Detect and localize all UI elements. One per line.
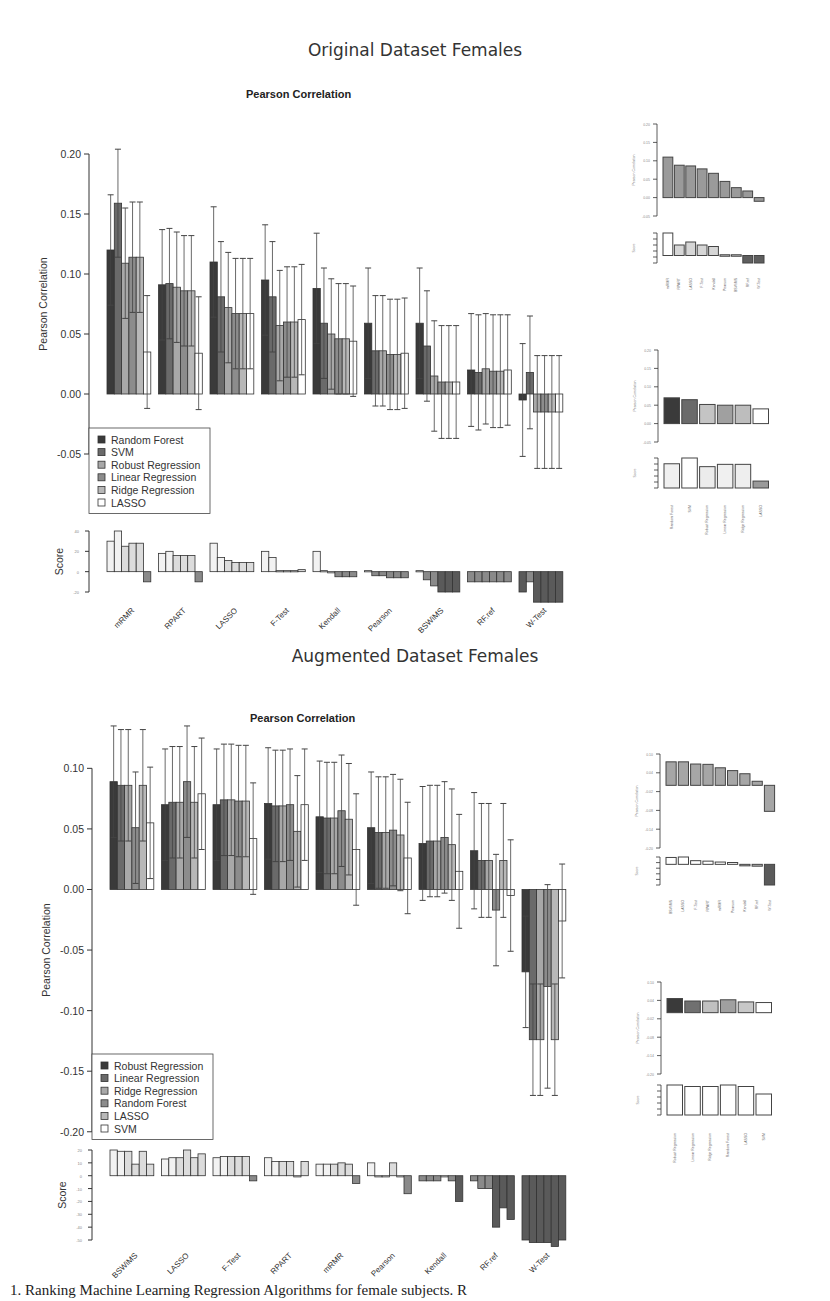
inset-x-label: Pearson <box>723 278 727 291</box>
inset-bar <box>685 1001 701 1013</box>
inset-x-label: Linear Regression <box>723 505 727 533</box>
y-tick-label: 0.00 <box>61 388 82 400</box>
score-bar <box>504 572 511 582</box>
bar-group <box>471 793 515 966</box>
score-bar <box>382 1176 389 1177</box>
inset-score-bar <box>753 481 769 488</box>
score-bar <box>335 572 342 577</box>
inset-score-bar <box>731 255 741 257</box>
score-bar <box>250 1176 257 1181</box>
score-bar <box>269 557 276 571</box>
x-tick-label: mRMR <box>112 606 136 630</box>
bar-group <box>107 149 151 408</box>
score-tick-label: -50 <box>76 1238 83 1243</box>
inset-bar <box>717 405 733 423</box>
inset-bar <box>735 405 751 423</box>
inset-tick-label: 0.10 <box>644 385 651 389</box>
score-bar <box>431 572 438 586</box>
inset-x-label: Kendall <box>712 278 716 290</box>
figure-canvas: 0.200.150.100.050.00-0.05Pearson Correla… <box>0 0 830 1301</box>
inset-tick-label: -0.02 <box>645 790 653 794</box>
inset-x-label: W-Test <box>757 278 761 289</box>
y-tick-label: -0.15 <box>60 1065 84 1077</box>
score-bar <box>117 1151 124 1175</box>
legend-swatch <box>98 474 105 481</box>
inset-tick-label: 0.04 <box>647 999 654 1003</box>
score-bar <box>294 1176 301 1177</box>
legend-label: Robust Regression <box>114 1060 203 1072</box>
legend-swatch <box>101 1062 108 1069</box>
inset-score-bar <box>735 464 751 488</box>
inset-score-bar <box>703 1087 719 1116</box>
inset-x-label: RF.ref <box>746 278 750 287</box>
score-bar <box>353 1176 360 1184</box>
score-tick-label: -40 <box>76 1225 83 1230</box>
main-chart: 0.100.050.00-0.05-0.10-0.15-0.20Pearson … <box>40 726 566 1280</box>
legend-swatch <box>98 486 105 493</box>
x-tick-label: LASSO <box>214 606 239 631</box>
score-bar <box>176 1158 183 1176</box>
inset-x-label: LASSO <box>689 278 693 290</box>
score-bar <box>328 572 335 573</box>
score-bar <box>394 572 401 578</box>
inset-chart: 0.200.150.100.050.00-0.05Pearson Correla… <box>632 123 764 293</box>
bar-group <box>365 268 409 410</box>
inset-x-label: Random Forest <box>726 1133 730 1157</box>
score-bar <box>242 1156 249 1175</box>
inset-x-label: mRMR <box>718 900 722 911</box>
inset-score-bar <box>664 464 680 488</box>
score-bar <box>534 572 541 603</box>
inset-tick-label: 0.20 <box>643 123 650 127</box>
score-bar <box>438 572 445 592</box>
inset-x-label: Robust Regression <box>705 505 709 535</box>
score-bar <box>423 572 430 580</box>
score-bar <box>291 571 298 572</box>
bar-group <box>468 314 512 430</box>
score-bar <box>475 572 482 582</box>
score-bar <box>235 1156 242 1175</box>
inset-score-bar <box>697 245 707 256</box>
score-tick-label: -30 <box>76 1212 83 1217</box>
inset-tick-label: -0.08 <box>646 1036 654 1040</box>
inset-bar <box>738 1002 754 1013</box>
inset-x-label: Kendall <box>743 900 747 912</box>
inset-bar <box>728 771 738 786</box>
score-bar <box>162 1159 169 1176</box>
inset-score-bar <box>663 233 673 256</box>
y-tick-label: -0.05 <box>60 944 84 956</box>
score-bar <box>239 563 246 572</box>
inset-x-label: LASSO <box>759 505 763 517</box>
bar-group <box>522 864 566 1095</box>
score-bar <box>272 1162 279 1176</box>
score-bar <box>519 572 526 592</box>
x-tick-label: F-Test <box>269 606 292 629</box>
inset-tick-label: -0.02 <box>646 1017 654 1021</box>
score-bar <box>482 572 489 582</box>
inset-score-bar <box>756 1094 772 1115</box>
x-tick-label: RF.ref <box>478 1251 500 1273</box>
bar-group <box>313 233 357 396</box>
inset-tick-label: 0.15 <box>644 367 651 371</box>
score-bar <box>541 572 548 603</box>
score-bar <box>183 1150 190 1176</box>
inset-tick-label: 0.10 <box>647 981 654 985</box>
inset-bar <box>720 181 730 197</box>
score-bar <box>522 1176 529 1240</box>
x-tick-label: BSWiMS <box>110 1251 139 1280</box>
inset-x-label: BSWiMS <box>669 899 673 914</box>
score-bar <box>375 1176 382 1177</box>
inset-bar <box>709 173 719 197</box>
inset-score-bar <box>764 864 774 885</box>
inset-score-bar <box>674 245 684 256</box>
legend-swatch <box>101 1087 108 1094</box>
legend-swatch <box>98 449 105 456</box>
score-bar <box>316 1164 323 1176</box>
inset-score-label: Score <box>635 866 639 875</box>
score-bar <box>132 1164 139 1176</box>
y-tick-label: -0.20 <box>60 1126 84 1138</box>
inset-score-bar <box>703 861 713 864</box>
legend-swatch <box>98 436 105 443</box>
legend-swatch <box>98 461 105 468</box>
x-tick-label: F-Test <box>220 1251 243 1274</box>
inset-bar <box>720 1000 736 1013</box>
